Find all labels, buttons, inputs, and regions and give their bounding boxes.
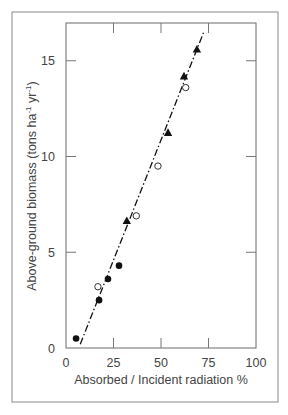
filled-circle-marker bbox=[116, 262, 123, 269]
open-circle-marker bbox=[183, 84, 189, 90]
x-tick-label: 100 bbox=[246, 356, 267, 370]
x-tick-label: 50 bbox=[154, 356, 168, 370]
filled-circle-marker bbox=[73, 335, 80, 342]
plot-area-frame bbox=[66, 23, 256, 348]
y-axis-label: Above-ground biomass (tons ha-1 yr-1) bbox=[24, 81, 39, 291]
open-circle-marker bbox=[95, 284, 101, 290]
x-axis-label: Absorbed / Incident radiation % bbox=[74, 373, 248, 387]
y-tick-label: 10 bbox=[41, 150, 55, 164]
filled-circle-marker bbox=[105, 276, 112, 283]
x-tick-label: 0 bbox=[63, 356, 70, 370]
filled-triangle-marker bbox=[193, 45, 201, 53]
x-axis-tick-labels: 0255075100 bbox=[63, 356, 267, 370]
x-tick-label: 75 bbox=[202, 356, 216, 370]
open-circle-marker bbox=[155, 163, 161, 169]
x-tick-label: 25 bbox=[107, 356, 121, 370]
y-tick-label: 5 bbox=[48, 246, 55, 260]
data-points bbox=[73, 45, 201, 342]
y-tick-label: 15 bbox=[41, 54, 55, 68]
chart: 0255075100 051015 Absorbed / Incident ra… bbox=[0, 0, 288, 415]
open-circle-marker bbox=[133, 213, 139, 219]
axis-ticks bbox=[66, 23, 256, 348]
y-tick-label: 0 bbox=[48, 342, 55, 356]
filled-circle-marker bbox=[96, 297, 103, 304]
y-axis-tick-labels: 051015 bbox=[41, 54, 55, 355]
